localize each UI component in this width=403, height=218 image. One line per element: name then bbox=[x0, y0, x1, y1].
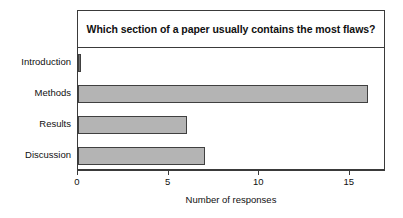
bar-introduction bbox=[78, 54, 384, 72]
bar-rect bbox=[78, 147, 205, 165]
category-label-text: Introduction bbox=[21, 53, 71, 71]
chart-title: Which section of a paper usually contain… bbox=[87, 23, 376, 35]
bar-discussion bbox=[78, 147, 384, 165]
x-tick-mark bbox=[258, 170, 259, 175]
plot-frame: Which section of a paper usually contain… bbox=[77, 10, 385, 170]
x-tick-label: 0 bbox=[74, 176, 79, 187]
x-axis-title: Number of responses bbox=[77, 194, 385, 205]
bar-methods bbox=[78, 85, 384, 103]
x-tick-label: 15 bbox=[343, 176, 354, 187]
category-label-text: Methods bbox=[35, 84, 71, 102]
x-axis bbox=[77, 170, 385, 171]
plot-area bbox=[78, 48, 384, 169]
category-label-text: Discussion bbox=[25, 146, 71, 164]
category-label-text: Results bbox=[39, 115, 71, 133]
x-tick-label: 5 bbox=[165, 176, 170, 187]
bar-results bbox=[78, 116, 384, 134]
title-banner: Which section of a paper usually contain… bbox=[78, 11, 384, 48]
bar-rect bbox=[78, 116, 187, 134]
x-tick-label: 10 bbox=[253, 176, 264, 187]
bar-rect bbox=[78, 85, 368, 103]
x-tick-mark bbox=[77, 170, 78, 175]
x-tick-mark bbox=[349, 170, 350, 175]
x-tick-mark bbox=[168, 170, 169, 175]
bar-chart: Which section of a paper usually contain… bbox=[0, 0, 403, 218]
bar-rect bbox=[78, 54, 81, 72]
